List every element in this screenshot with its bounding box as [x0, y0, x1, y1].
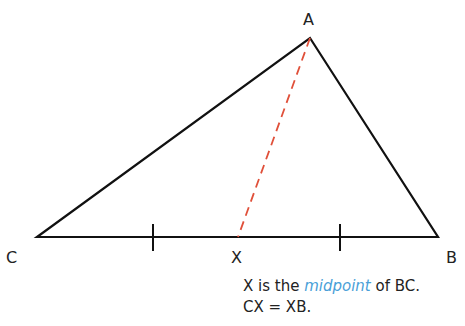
vertex-label-a: A: [303, 12, 314, 28]
caption-text: X is the: [243, 277, 304, 295]
caption-line-2: CX = XB.: [243, 297, 420, 318]
vertex-label-b: B: [446, 250, 457, 266]
vertex-label-c: C: [6, 250, 17, 266]
caption: X is the midpoint of BC. CX = XB.: [243, 276, 420, 318]
keyword-midpoint: midpoint: [304, 277, 371, 295]
triangle-abc: [37, 38, 438, 237]
median-ax: [238, 38, 310, 237]
caption-line-1: X is the midpoint of BC.: [243, 276, 420, 297]
vertex-label-x: X: [231, 250, 242, 266]
caption-text: of BC.: [371, 277, 420, 295]
